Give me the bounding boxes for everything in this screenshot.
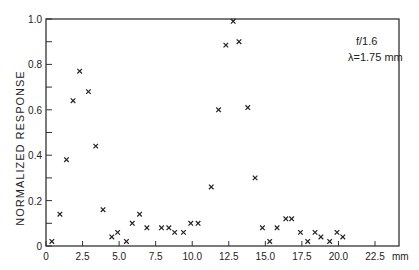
- scatter-chart: 02.55.07.510.012.515.017.520.022.5mm 00.…: [0, 0, 419, 270]
- data-point-marker: [130, 221, 135, 226]
- y-tick-label: 0.6: [28, 105, 42, 116]
- data-points: [50, 19, 346, 244]
- data-point-marker: [50, 239, 55, 244]
- x-tick-label: 17.5: [292, 251, 312, 262]
- x-axis-unit: mm: [392, 251, 409, 262]
- x-tick-label: 5.0: [112, 251, 126, 262]
- data-point-marker: [341, 235, 346, 240]
- data-point-marker: [145, 226, 150, 231]
- x-tick-label: 0: [43, 251, 49, 262]
- data-point-marker: [172, 230, 177, 235]
- x-tick-label: 20.0: [329, 251, 349, 262]
- data-point-marker: [77, 69, 82, 74]
- data-point-marker: [275, 226, 280, 231]
- x-tick-label: 15.0: [256, 251, 276, 262]
- data-point-marker: [101, 207, 106, 212]
- data-point-marker: [289, 216, 294, 221]
- data-point-marker: [327, 239, 332, 244]
- x-axis: 02.55.07.510.012.515.017.520.022.5mm: [43, 241, 408, 262]
- data-point-marker: [196, 221, 201, 226]
- data-point-marker: [159, 226, 164, 231]
- data-point-marker: [224, 43, 229, 48]
- data-point-marker: [245, 105, 250, 110]
- x-tick-label: 7.5: [149, 251, 163, 262]
- data-point-marker: [110, 235, 115, 240]
- data-point-marker: [58, 212, 63, 217]
- y-tick-label: 0.4: [28, 150, 42, 161]
- x-tick-label: 2.5: [76, 251, 90, 262]
- data-point-marker: [71, 98, 76, 103]
- data-point-marker: [335, 230, 340, 235]
- data-point-marker: [137, 212, 142, 217]
- data-point-marker: [209, 185, 214, 190]
- data-point-marker: [260, 226, 265, 231]
- data-point-marker: [86, 89, 91, 94]
- annotation-wavelength: λ=1.75 mm: [348, 51, 403, 63]
- data-point-marker: [237, 39, 242, 44]
- data-point-marker: [319, 235, 324, 240]
- data-point-marker: [231, 19, 236, 24]
- data-point-marker: [267, 239, 272, 244]
- x-tick-label: 12.5: [219, 251, 239, 262]
- data-point-marker: [305, 239, 310, 244]
- data-point-marker: [167, 226, 172, 231]
- x-tick-label: 10.0: [182, 251, 202, 262]
- data-point-marker: [188, 221, 193, 226]
- y-axis-label: NORMALIZED RESPONSE: [14, 70, 26, 225]
- y-tick-label: 0.2: [28, 196, 42, 207]
- data-point-marker: [216, 108, 221, 113]
- x-tick-label: 22.5: [365, 251, 385, 262]
- data-point-marker: [284, 216, 289, 221]
- y-tick-label: 1.0: [28, 14, 42, 25]
- data-point-marker: [253, 176, 258, 181]
- y-tick-label: 0: [36, 241, 42, 252]
- data-point-marker: [124, 239, 129, 244]
- annotation-fnumber: f/1.6: [356, 35, 377, 47]
- data-point-marker: [93, 144, 98, 149]
- data-point-marker: [298, 230, 303, 235]
- data-point-marker: [313, 230, 318, 235]
- data-point-marker: [181, 230, 186, 235]
- y-axis: 00.20.40.60.81.0: [28, 14, 52, 252]
- data-point-marker: [115, 230, 120, 235]
- data-point-marker: [64, 157, 69, 162]
- plot-frame: [46, 19, 399, 246]
- y-tick-label: 0.8: [28, 59, 42, 70]
